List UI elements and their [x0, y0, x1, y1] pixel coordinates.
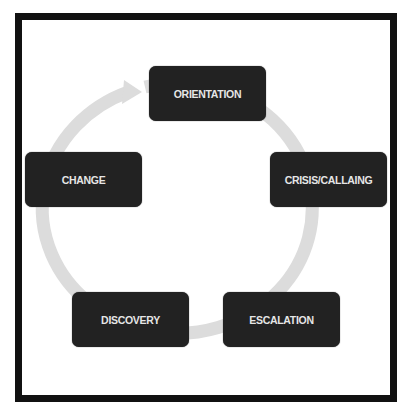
node-escalation: ESCALATION: [223, 292, 340, 347]
node-crisis-calling: CRISIS/CALLAING: [270, 152, 387, 207]
node-label: ORIENTATION: [174, 88, 241, 100]
node-label: DISCOVERY: [101, 314, 160, 326]
node-orientation: ORIENTATION: [149, 66, 266, 121]
node-label: ESCALATION: [249, 314, 313, 326]
node-discovery: DISCOVERY: [72, 292, 189, 347]
node-label: CRISIS/CALLAING: [285, 174, 373, 186]
node-label: CHANGE: [62, 174, 106, 186]
node-change: CHANGE: [25, 152, 142, 207]
arrowhead-icon: [122, 80, 142, 104]
